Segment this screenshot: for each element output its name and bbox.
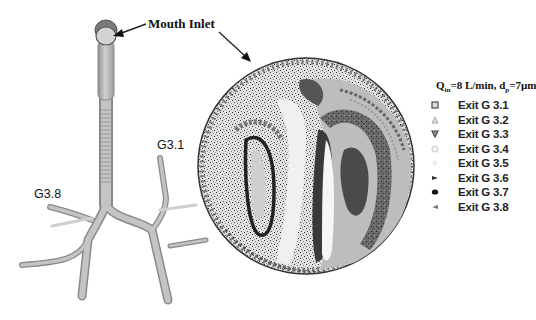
legend-item: Exit G 3.3 xyxy=(428,127,508,142)
square-outline-icon xyxy=(428,99,442,111)
legend-label: Exit G 3.5 xyxy=(458,157,508,169)
triangle-down-icon xyxy=(428,128,442,140)
legend-label: Exit G 3.3 xyxy=(458,128,508,140)
legend-label: Exit G 3.7 xyxy=(458,186,508,198)
circle-outline-icon xyxy=(428,143,442,155)
deposition-cross-section xyxy=(198,58,414,274)
legend-item: Exit G 3.4 xyxy=(428,142,508,157)
g3-1-label: G3.1 xyxy=(157,138,184,152)
legend-label: Exit G 3.8 xyxy=(458,201,508,213)
flow-condition-label: Qin=8 L/min, dp=7µm xyxy=(436,79,536,94)
triangle-right-icon xyxy=(428,172,442,184)
legend-item: Exit G 3.6 xyxy=(428,171,508,186)
airway-model xyxy=(22,20,206,300)
legend-label: Exit G 3.1 xyxy=(458,99,508,111)
mouth-inlet-arrow xyxy=(113,24,146,37)
mouth-inlet-label: Mouth Inlet xyxy=(148,16,215,32)
legend-label: Exit G 3.6 xyxy=(458,172,508,184)
q-value: =8 L/min, d xyxy=(450,79,505,91)
filled-circle-icon xyxy=(428,186,442,198)
plus-icon xyxy=(428,157,442,169)
legend: Exit G 3.1 Exit G 3.2 Exit G 3.3 Exit G … xyxy=(428,98,508,214)
g3-8-label: G3.8 xyxy=(34,187,61,201)
q-symbol: Q xyxy=(436,79,445,91)
legend-item: Exit G 3.8 xyxy=(428,200,508,215)
legend-item: Exit G 3.1 xyxy=(428,98,508,113)
legend-item: Exit G 3.7 xyxy=(428,185,508,200)
triangle-up-icon xyxy=(428,114,442,126)
triangle-left-icon xyxy=(428,201,442,213)
cross-section-arrow xyxy=(219,32,251,62)
legend-item: Exit G 3.2 xyxy=(428,113,508,128)
legend-label: Exit G 3.4 xyxy=(458,143,508,155)
legend-item: Exit G 3.5 xyxy=(428,156,508,171)
legend-label: Exit G 3.2 xyxy=(458,114,508,126)
d-value: =7µm xyxy=(509,79,536,91)
